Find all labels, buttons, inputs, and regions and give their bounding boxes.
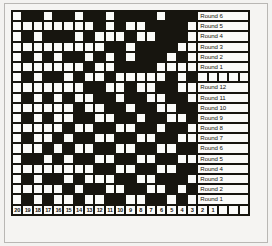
chart-cell[interactable]: [63, 72, 73, 82]
chart-cell[interactable]: [43, 62, 53, 72]
chart-cell[interactable]: [166, 11, 176, 21]
chart-cell[interactable]: [136, 31, 146, 41]
chart-cell[interactable]: [166, 21, 176, 31]
chart-cell[interactable]: [94, 133, 104, 143]
chart-cell[interactable]: [105, 31, 115, 41]
chart-cell[interactable]: [33, 11, 43, 21]
chart-cell[interactable]: [53, 194, 63, 204]
chart-cell[interactable]: [115, 82, 125, 92]
chart-cell[interactable]: [146, 174, 156, 184]
chart-cell[interactable]: [63, 11, 73, 21]
chart-cell[interactable]: [22, 82, 32, 92]
chart-cell[interactable]: [156, 62, 166, 72]
chart-cell[interactable]: [94, 52, 104, 62]
chart-cell[interactable]: [156, 31, 166, 41]
chart-cell[interactable]: [94, 31, 104, 41]
chart-cell[interactable]: [74, 42, 84, 52]
chart-cell[interactable]: [125, 72, 135, 82]
chart-cell[interactable]: [146, 164, 156, 174]
chart-cell[interactable]: [136, 52, 146, 62]
chart-cell[interactable]: [53, 11, 63, 21]
chart-cell[interactable]: [125, 154, 135, 164]
chart-cell[interactable]: [187, 133, 197, 143]
chart-cell[interactable]: [94, 164, 104, 174]
chart-cell[interactable]: [94, 123, 104, 133]
chart-cell[interactable]: [177, 11, 187, 21]
chart-cell[interactable]: [63, 31, 73, 41]
chart-cell[interactable]: [84, 113, 94, 123]
chart-cell[interactable]: [125, 113, 135, 123]
chart-cell[interactable]: [74, 194, 84, 204]
chart-cell[interactable]: [136, 174, 146, 184]
chart-cell[interactable]: [177, 52, 187, 62]
chart-cell[interactable]: [63, 62, 73, 72]
chart-cell[interactable]: [125, 184, 135, 194]
chart-cell[interactable]: [146, 52, 156, 62]
chart-cell[interactable]: [166, 184, 176, 194]
chart-cell[interactable]: [63, 154, 73, 164]
chart-cell[interactable]: [33, 93, 43, 103]
chart-cell[interactable]: [63, 184, 73, 194]
chart-cell[interactable]: [177, 82, 187, 92]
chart-cell[interactable]: [166, 133, 176, 143]
chart-cell[interactable]: [74, 164, 84, 174]
chart-cell[interactable]: [12, 154, 22, 164]
chart-cell[interactable]: [22, 184, 32, 194]
chart-cell[interactable]: [177, 194, 187, 204]
chart-cell[interactable]: [146, 82, 156, 92]
chart-cell[interactable]: [33, 164, 43, 174]
chart-cell[interactable]: [33, 123, 43, 133]
chart-cell[interactable]: [115, 113, 125, 123]
chart-cell[interactable]: [177, 174, 187, 184]
chart-cell[interactable]: [187, 93, 197, 103]
chart-cell[interactable]: [43, 42, 53, 52]
chart-cell[interactable]: [125, 11, 135, 21]
chart-cell[interactable]: [125, 103, 135, 113]
chart-cell[interactable]: [166, 62, 176, 72]
chart-cell[interactable]: [187, 31, 197, 41]
chart-cell[interactable]: [63, 103, 73, 113]
chart-cell[interactable]: [136, 72, 146, 82]
chart-cell[interactable]: [136, 154, 146, 164]
chart-cell[interactable]: [84, 164, 94, 174]
chart-cell[interactable]: [33, 143, 43, 153]
chart-cell[interactable]: [22, 113, 32, 123]
chart-cell[interactable]: [33, 133, 43, 143]
chart-cell[interactable]: [22, 11, 32, 21]
chart-cell[interactable]: [125, 42, 135, 52]
chart-cell[interactable]: [84, 11, 94, 21]
chart-cell[interactable]: [94, 103, 104, 113]
chart-cell[interactable]: [177, 113, 187, 123]
chart-cell[interactable]: [53, 82, 63, 92]
chart-cell[interactable]: [156, 194, 166, 204]
chart-cell[interactable]: [33, 82, 43, 92]
chart-cell[interactable]: [177, 123, 187, 133]
chart-cell[interactable]: [146, 62, 156, 72]
chart-cell[interactable]: [166, 113, 176, 123]
chart-cell[interactable]: [43, 154, 53, 164]
chart-cell[interactable]: [94, 184, 104, 194]
chart-cell[interactable]: [115, 103, 125, 113]
chart-cell[interactable]: [166, 72, 176, 82]
chart-cell[interactable]: [156, 113, 166, 123]
chart-cell[interactable]: [33, 184, 43, 194]
chart-cell[interactable]: [125, 52, 135, 62]
chart-cell[interactable]: [53, 164, 63, 174]
chart-cell[interactable]: [187, 174, 197, 184]
chart-cell[interactable]: [22, 133, 32, 143]
chart-cell[interactable]: [177, 62, 187, 72]
chart-cell[interactable]: [146, 113, 156, 123]
chart-cell[interactable]: [187, 194, 197, 204]
chart-cell[interactable]: [115, 184, 125, 194]
chart-cell[interactable]: [22, 62, 32, 72]
chart-cell[interactable]: [136, 82, 146, 92]
chart-cell[interactable]: [177, 72, 187, 82]
chart-cell[interactable]: [84, 184, 94, 194]
chart-cell[interactable]: [115, 11, 125, 21]
chart-cell[interactable]: [84, 133, 94, 143]
chart-cell[interactable]: [187, 154, 197, 164]
chart-cell[interactable]: [53, 42, 63, 52]
chart-cell[interactable]: [74, 113, 84, 123]
chart-cell[interactable]: [136, 194, 146, 204]
chart-cell[interactable]: [177, 133, 187, 143]
